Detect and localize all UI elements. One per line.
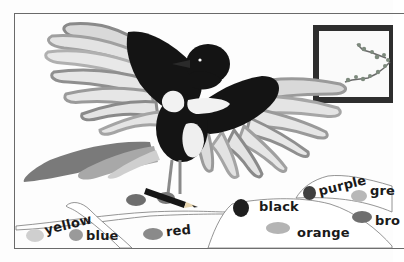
swatch-yellow — [26, 229, 44, 242]
word-black: black — [259, 199, 299, 214]
word-orange: orange — [297, 225, 350, 240]
word-red: red — [165, 222, 192, 240]
swatch-brown — [352, 211, 372, 223]
swatch-blue — [69, 229, 83, 241]
word-blue: blue — [86, 228, 119, 243]
pencil — [144, 188, 198, 208]
swatch-red — [143, 228, 163, 240]
tail-feathers — [24, 142, 160, 182]
swatch-green — [351, 190, 367, 202]
swatch-purple — [303, 186, 316, 200]
right-wing — [194, 76, 346, 178]
word-brown: bro — [375, 213, 400, 228]
word-green: gre — [370, 183, 395, 198]
swatch-black — [233, 199, 249, 217]
swatch-orange — [266, 222, 290, 234]
